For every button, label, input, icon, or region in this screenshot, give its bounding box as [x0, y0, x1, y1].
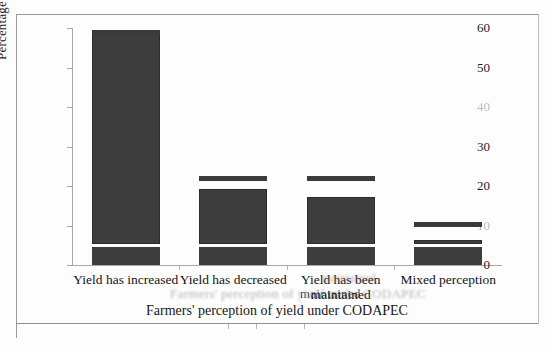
y-axis-tick-label: 50 [450, 61, 490, 74]
x-axis-category-separator [287, 265, 288, 270]
y-axis-tick-label: 40 [450, 100, 490, 113]
scan-artifact-ghost-maintained: maintained [322, 272, 376, 284]
y-axis-tick [67, 28, 72, 29]
y-axis-tick [67, 68, 72, 69]
bar [307, 197, 375, 243]
y-axis-tick [67, 265, 72, 266]
y-axis-title-text: Percentage of respondents [0, 0, 9, 60]
x-axis-category-label-line: Mixed perception [400, 272, 496, 287]
x-axis-category-separator [394, 265, 395, 270]
bar-cap-marker [92, 30, 160, 35]
plot-area: 0102030405060 [72, 28, 502, 266]
figure-chart: Percentage of respondents ˈ 010203040506… [0, 0, 553, 352]
frame-border-top [16, 14, 538, 15]
y-axis-tick-label: 30 [450, 140, 490, 153]
bar-base-segment [307, 247, 375, 265]
bar-cap-marker [414, 222, 482, 227]
frame-subtick [256, 324, 257, 329]
scan-artifact-ghost-overlap: maintained [300, 286, 361, 302]
frame-border-left [16, 14, 17, 338]
x-axis-category-label-line: Yield has increased [73, 272, 178, 287]
x-axis-title: Farmers' perception of yield under CODAP… [16, 303, 538, 319]
x-axis-category-label-line: Yield has decreased [180, 272, 287, 287]
bar-base-segment [92, 247, 160, 265]
y-axis-tick [67, 147, 72, 148]
frame-subtick [304, 324, 305, 329]
y-axis-tick-label: 60 [450, 21, 490, 34]
bar-cap-marker [307, 176, 375, 181]
x-axis-category-separator [179, 265, 180, 270]
bar [92, 33, 160, 244]
bar-base-segment [414, 247, 482, 265]
bar [414, 240, 482, 244]
x-axis-title-clip: Farmers' perception of yield under CODAP… [16, 303, 538, 323]
bar [199, 189, 267, 244]
y-axis-tick [67, 107, 72, 108]
y-axis-tick-label: 20 [450, 179, 490, 192]
y-axis-tick [67, 226, 72, 227]
bar-cap-marker [199, 176, 267, 181]
frame-border-right [538, 14, 539, 324]
y-axis-title: Percentage of respondents ˈ [0, 0, 10, 60]
frame-border-bottom [16, 323, 538, 324]
y-axis-line [72, 28, 73, 266]
y-axis-tick [67, 186, 72, 187]
bar-base-segment [199, 247, 267, 265]
scan-artifact-ghost-title: Farmers' perception of yield under CODAP… [148, 286, 448, 302]
frame-subtick [228, 324, 229, 329]
